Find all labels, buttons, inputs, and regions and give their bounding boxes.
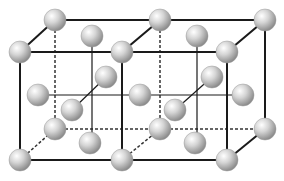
face-center-atom-back xyxy=(201,66,223,88)
corner-atom-back xyxy=(254,118,276,140)
face-center-atom-front xyxy=(61,99,83,121)
corner-atom-back xyxy=(149,9,171,31)
corner-atom-front xyxy=(216,149,238,171)
face-center-atom-side xyxy=(27,84,49,106)
face-center-atom-bottom xyxy=(79,132,101,154)
corner-atom-back xyxy=(44,9,66,31)
face-center-atom-side xyxy=(232,84,254,106)
corner-atom-front xyxy=(9,149,31,171)
corner-atom-front xyxy=(111,149,133,171)
face-center-atom-bottom xyxy=(184,132,206,154)
atom-spheres xyxy=(9,9,276,171)
face-center-atom-top xyxy=(81,25,103,47)
corner-atom-back xyxy=(44,118,66,140)
face-center-atom-back xyxy=(95,66,117,88)
corner-atom-front xyxy=(216,41,238,63)
corner-atom-front xyxy=(9,41,31,63)
face-center-atom-side xyxy=(129,84,151,106)
fcc-lattice-diagram xyxy=(0,0,284,181)
corner-atom-front xyxy=(111,41,133,63)
corner-atom-back xyxy=(149,118,171,140)
face-center-atom-top xyxy=(186,25,208,47)
face-center-atom-front xyxy=(164,99,186,121)
corner-atom-back xyxy=(254,9,276,31)
